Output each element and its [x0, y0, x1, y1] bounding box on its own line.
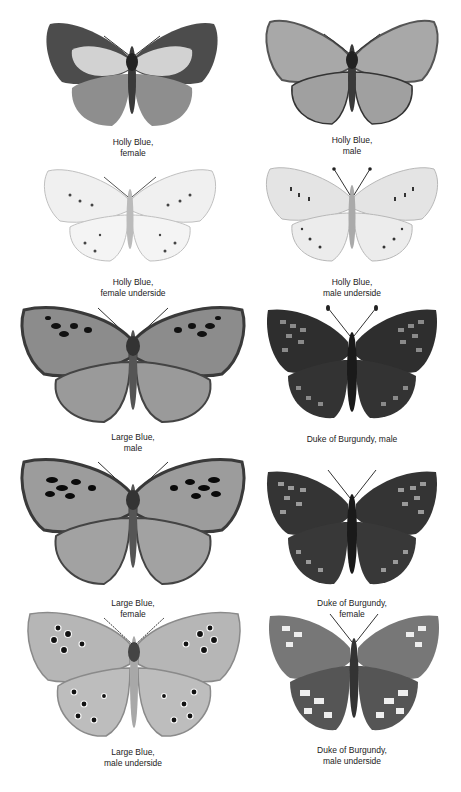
duke-of-burgundy-male-underside-image — [264, 608, 444, 734]
butterfly-plate: Holly Blue, female Holly Blue, male — [0, 0, 461, 792]
caption-line: Large Blue, — [33, 747, 233, 758]
caption-holly-blue-female-underside: Holly Blue, female underside — [33, 277, 233, 299]
caption-line: male — [252, 146, 452, 157]
large-blue-male-image — [18, 300, 248, 425]
caption-line: female underside — [33, 288, 233, 299]
caption-line: Holly Blue, — [33, 277, 233, 288]
caption-line: Holly Blue, — [252, 277, 452, 288]
duke-of-burgundy-female-image — [262, 464, 442, 588]
large-blue-female-image — [18, 452, 248, 587]
caption-line: Duke of Burgundy, — [252, 745, 452, 756]
holly-blue-female-underside-image — [40, 165, 220, 265]
large-blue-male-underside-image — [24, 604, 244, 740]
caption-line: male underside — [252, 288, 452, 299]
holly-blue-male-underside-image — [262, 163, 442, 265]
caption-holly-blue-male-underside: Holly Blue, male underside — [252, 277, 452, 299]
caption-line: Holly Blue, — [252, 135, 452, 146]
caption-line: Large Blue, — [33, 432, 233, 443]
caption-duke-of-burgundy-male: Duke of Burgundy, male — [252, 434, 452, 445]
caption-holly-blue-male: Holly Blue, male — [252, 135, 452, 157]
duke-of-burgundy-male-image — [262, 302, 442, 422]
caption-line: Holly Blue, — [33, 137, 233, 148]
caption-line: Duke of Burgundy, male — [252, 434, 452, 445]
holly-blue-female-image — [42, 18, 222, 130]
caption-line: female — [33, 148, 233, 159]
caption-line: male underside — [252, 756, 452, 767]
caption-large-blue-male: Large Blue, male — [33, 432, 233, 454]
caption-duke-of-burgundy-male-underside: Duke of Burgundy, male underside — [252, 745, 452, 767]
caption-large-blue-male-underside: Large Blue, male underside — [33, 747, 233, 769]
caption-holly-blue-female: Holly Blue, female — [33, 137, 233, 159]
holly-blue-male-image — [262, 16, 442, 128]
caption-line: male underside — [33, 758, 233, 769]
